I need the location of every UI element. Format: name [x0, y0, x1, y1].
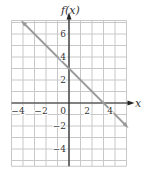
y-axis-label: f(x)	[60, 4, 80, 17]
y-tick-label: 4	[60, 52, 66, 62]
axes	[12, 13, 135, 167]
x-tick-label: −4	[11, 106, 25, 116]
x-axis-label: x	[135, 97, 142, 110]
x-tick-label: 0	[60, 106, 66, 116]
x-tick-label: 2	[84, 106, 90, 116]
y-tick-label: 6	[60, 29, 66, 39]
y-tick-label: −2	[53, 121, 66, 131]
y-tick-label: 2	[60, 75, 66, 85]
x-axis-arrow-icon	[128, 101, 135, 106]
x-tick-label: 4	[107, 106, 113, 116]
y-tick-label: −4	[53, 144, 67, 154]
x-tick-label: −2	[34, 106, 47, 116]
function-graph: −4−2024−4−2246 f(x) x	[0, 0, 145, 175]
